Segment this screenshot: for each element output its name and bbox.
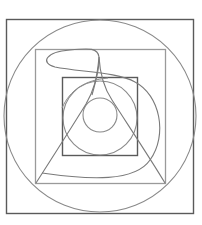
spiral-curve (42, 49, 160, 178)
diagram-svg (0, 0, 202, 225)
geometric-diagram (0, 0, 202, 225)
inner-circle (83, 98, 117, 132)
middle-circle (63, 81, 137, 155)
lower-arc (62, 78, 108, 108)
teardrop-triangle (36, 57, 165, 183)
